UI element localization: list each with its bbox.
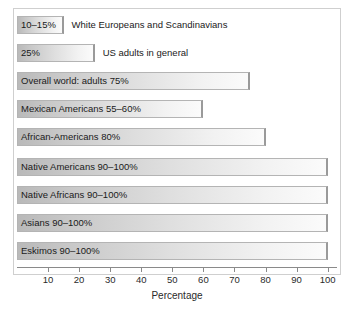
- x-axis-tick: [172, 267, 173, 272]
- bar-row: 25%US adults in general: [13, 44, 333, 62]
- bar-value-label: 25%: [21, 44, 40, 62]
- x-axis-tick: [234, 267, 235, 272]
- bar-value-label: Native Americans 90–100%: [21, 158, 138, 176]
- x-axis-tick-label: 10: [43, 274, 54, 285]
- bar-value-label: Mexican Americans 55–60%: [21, 100, 141, 118]
- x-axis-tick: [110, 267, 111, 272]
- x-axis-tick: [48, 267, 49, 272]
- bar-chart-figure: 10–15%White Europeans and Scandinavians2…: [0, 0, 354, 314]
- x-axis-tick-label: 70: [229, 274, 240, 285]
- bar-row: Native Americans 90–100%: [13, 158, 333, 176]
- bar-row: Eskimos 90–100%: [13, 242, 333, 260]
- bar-category-label: US adults in general: [103, 44, 189, 62]
- bar-category-label: White Europeans and Scandinavians: [72, 16, 228, 34]
- x-axis-tick-label: 100: [320, 274, 336, 285]
- plot-area: 10–15%White Europeans and Scandinavians2…: [13, 8, 341, 275]
- x-axis-tick: [203, 267, 204, 272]
- x-axis-tick-label: 50: [167, 274, 178, 285]
- x-axis-tick-label: 80: [260, 274, 271, 285]
- bar-row: 10–15%White Europeans and Scandinavians: [13, 16, 333, 34]
- x-axis-line: [17, 267, 337, 268]
- x-axis-tick-label: 30: [105, 274, 116, 285]
- bar-row: Asians 90–100%: [13, 214, 333, 232]
- x-axis-tick: [328, 267, 329, 272]
- bar-value-label: Native Africans 90–100%: [21, 186, 127, 204]
- bar-row: Mexican Americans 55–60%: [13, 100, 333, 118]
- x-axis-tick-label: 20: [74, 274, 85, 285]
- bar-row: Native Africans 90–100%: [13, 186, 333, 204]
- bar-value-label: Eskimos 90–100%: [21, 242, 100, 260]
- x-axis-tick-label: 60: [198, 274, 209, 285]
- x-axis-tick-label: 90: [291, 274, 302, 285]
- bar-row: Overall world: adults 75%: [13, 72, 333, 90]
- x-axis-tick-label: 40: [136, 274, 147, 285]
- x-axis-tick: [266, 267, 267, 272]
- bar-row: African-Americans 80%: [13, 128, 333, 146]
- x-axis-title: Percentage: [0, 290, 354, 301]
- bar-value-label: 10–15%: [21, 16, 56, 34]
- bar-value-label: African-Americans 80%: [21, 128, 120, 146]
- bar-value-label: Asians 90–100%: [21, 214, 92, 232]
- x-axis-tick: [79, 267, 80, 272]
- x-axis-tick: [141, 267, 142, 272]
- bar-value-label: Overall world: adults 75%: [21, 72, 129, 90]
- x-axis-tick: [297, 267, 298, 272]
